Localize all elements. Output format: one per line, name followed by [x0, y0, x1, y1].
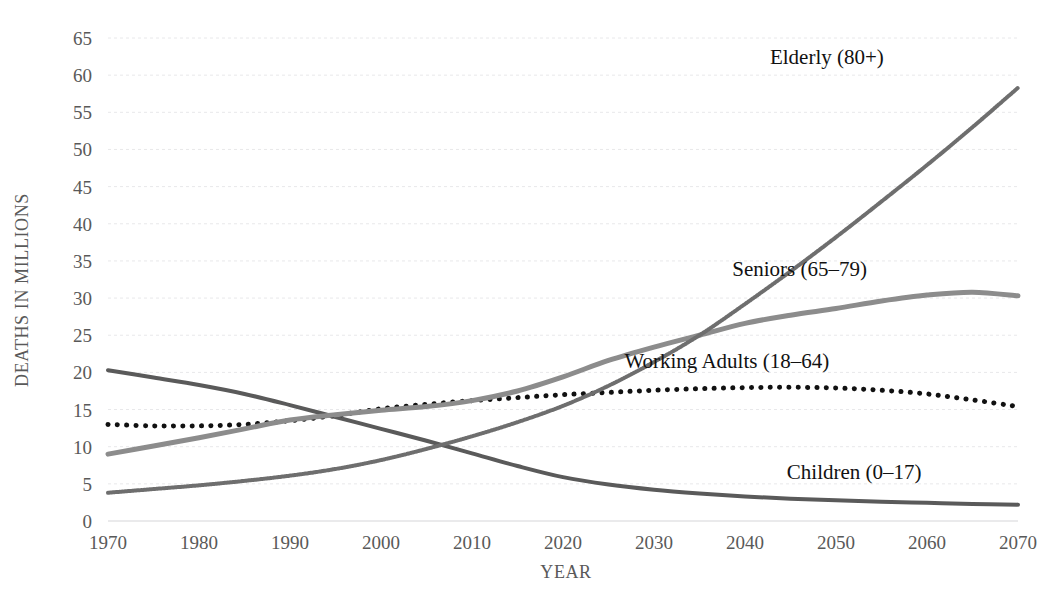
x-tick-2040: 2040: [726, 532, 764, 553]
series-labels: Children (0–17)Working Adults (18–64)Sen…: [624, 45, 921, 484]
y-axis-title: DEATHS IN MILLIONS: [12, 193, 32, 387]
line-chart: 05101520253035404550556065 1970198019902…: [0, 0, 1062, 608]
y-tick-5: 5: [83, 474, 93, 495]
x-tick-2030: 2030: [635, 532, 673, 553]
x-tick-1990: 1990: [271, 532, 309, 553]
x-tick-2000: 2000: [362, 532, 400, 553]
x-tick-2020: 2020: [544, 532, 582, 553]
x-tick-1980: 1980: [180, 532, 218, 553]
series-label-3: Elderly (80+): [770, 45, 884, 69]
series-line-3: [108, 88, 1018, 493]
x-tick-1970: 1970: [89, 532, 127, 553]
y-tick-60: 60: [73, 65, 92, 86]
x-axis-title: YEAR: [540, 562, 591, 582]
y-tick-40: 40: [73, 214, 92, 235]
y-tick-0: 0: [83, 511, 93, 532]
x-tick-2010: 2010: [453, 532, 491, 553]
x-tick-2070: 2070: [999, 532, 1037, 553]
y-tick-55: 55: [73, 102, 92, 123]
x-axis-tick-labels: 1970198019902000201020202030204020502060…: [89, 532, 1037, 553]
y-tick-45: 45: [73, 177, 92, 198]
y-tick-50: 50: [73, 139, 92, 160]
y-tick-35: 35: [73, 251, 92, 272]
series-label-1: Working Adults (18–64): [624, 349, 829, 373]
y-tick-20: 20: [73, 362, 92, 383]
series-label-2: Seniors (65–79): [732, 257, 867, 281]
y-tick-65: 65: [73, 28, 92, 49]
series-lines: [108, 88, 1018, 505]
y-tick-30: 30: [73, 288, 92, 309]
x-tick-2060: 2060: [908, 532, 946, 553]
y-tick-15: 15: [73, 400, 92, 421]
y-tick-10: 10: [73, 437, 92, 458]
series-line-2: [108, 292, 1018, 454]
chart-canvas: 05101520253035404550556065 1970198019902…: [0, 0, 1062, 608]
gridlines: [108, 38, 1018, 521]
x-tick-2050: 2050: [817, 532, 855, 553]
y-axis-tick-labels: 05101520253035404550556065: [73, 28, 92, 532]
series-label-0: Children (0–17): [787, 460, 922, 484]
y-tick-25: 25: [73, 325, 92, 346]
